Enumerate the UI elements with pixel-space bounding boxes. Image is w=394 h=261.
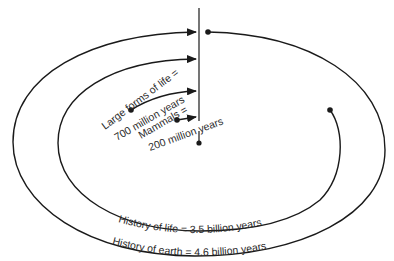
present-dot bbox=[196, 140, 201, 145]
history-of-life-label: History of life = 3.5 billion years bbox=[117, 212, 262, 235]
spiral-timeline-diagram: Large forms of life = 700 million years … bbox=[0, 0, 394, 261]
history-of-earth-label: History of earth = 4.6 billion years bbox=[112, 234, 268, 257]
life-start-dot bbox=[327, 107, 333, 113]
earth-start-dot bbox=[205, 29, 211, 35]
